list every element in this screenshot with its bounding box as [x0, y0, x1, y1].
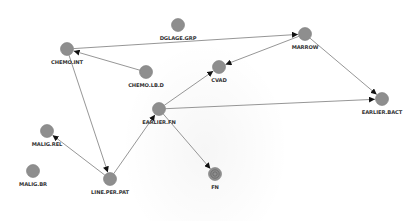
node-label: EARLIER.FN	[142, 119, 175, 125]
node-label: DGLAGE.GRP	[160, 35, 197, 41]
node-label: FN	[211, 184, 219, 190]
edge-chemo-lb-d-to-chemo-int[interactable]	[74, 51, 140, 70]
node-dglage-grp[interactable]: DGLAGE.GRP	[160, 19, 197, 41]
node-label: MARROW	[292, 44, 319, 50]
node-label: LINE.PER.PAT	[91, 189, 129, 195]
node-circle-icon[interactable]	[27, 165, 40, 178]
node-line-per-pat[interactable]: LINE.PER.PAT	[91, 173, 129, 195]
node-label: MALIG.BR	[19, 181, 47, 187]
node-malig-br[interactable]: MALIG.BR	[19, 165, 47, 187]
node-circle-icon[interactable]	[213, 61, 226, 74]
node-malig-rel[interactable]: MALIG.REL	[32, 125, 63, 147]
node-label: EARLIER.BACT	[362, 109, 403, 115]
node-marrow[interactable]: MARROW	[292, 28, 319, 50]
node-earlier-fn[interactable]: EARLIER.FN	[142, 103, 175, 125]
node-circle-icon[interactable]	[172, 19, 185, 32]
node-label: CHEMO.INT	[51, 59, 84, 65]
edges-layer	[53, 34, 377, 175]
target-node-icon[interactable]	[209, 168, 222, 181]
node-circle-icon[interactable]	[61, 43, 74, 56]
node-cvad[interactable]: CVAD	[211, 61, 227, 83]
node-circle-icon[interactable]	[140, 66, 153, 79]
edge-earlier-fn-to-earlier-bact[interactable]	[166, 99, 376, 108]
node-fn[interactable]: FN	[209, 168, 222, 190]
edge-chemo-int-to-line-per-pat[interactable]	[69, 55, 108, 172]
node-circle-icon[interactable]	[376, 93, 389, 106]
node-earlier-bact[interactable]: EARLIER.BACT	[362, 93, 403, 115]
node-label: CHEMO.LB.D	[128, 82, 164, 88]
edge-marrow-to-cvad[interactable]	[226, 36, 299, 64]
network-diagram: CHEMO.INTDGLAGE.GRPCHEMO.LB.DMARROWCVADE…	[0, 0, 419, 221]
node-circle-icon[interactable]	[153, 103, 166, 116]
node-circle-icon[interactable]	[104, 173, 117, 186]
node-circle-icon[interactable]	[41, 125, 54, 138]
edge-earlier-fn-to-cvad[interactable]	[164, 71, 213, 105]
node-label: MALIG.REL	[32, 141, 63, 147]
node-label: CVAD	[211, 77, 227, 83]
node-circle-icon[interactable]	[299, 28, 312, 41]
node-chemo-int[interactable]: CHEMO.INT	[51, 43, 84, 65]
edge-marrow-to-earlier-bact[interactable]	[310, 38, 377, 94]
